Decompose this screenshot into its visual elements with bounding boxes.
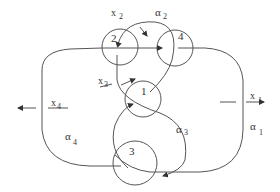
crossing-label-2: 2 — [111, 32, 117, 44]
knot-diagram: 2 4 1 3 x 2 x 3 x 4 x 1 α 2 α 3 α 4 α 1 — [0, 0, 280, 192]
label-x2: x 2 — [111, 7, 123, 21]
svg-text:3: 3 — [104, 80, 108, 89]
svg-text:x: x — [111, 7, 116, 18]
label-alpha1: α 1 — [250, 120, 263, 137]
crossing-circle-3 — [113, 141, 157, 185]
svg-text:x: x — [98, 75, 103, 86]
x2-arrow — [140, 27, 147, 36]
svg-text:1: 1 — [259, 128, 263, 137]
crossing-label-1: 1 — [141, 85, 147, 97]
crossing-circle-2 — [102, 29, 138, 65]
label-x4: x 4 — [51, 97, 61, 111]
svg-text:α: α — [65, 130, 71, 142]
svg-text:2: 2 — [163, 12, 167, 21]
svg-text:x: x — [51, 97, 56, 108]
svg-text:α: α — [155, 6, 161, 18]
svg-text:x: x — [250, 90, 255, 101]
crossing-label-3: 3 — [129, 145, 135, 157]
svg-text:1: 1 — [258, 96, 262, 105]
svg-text:α: α — [250, 120, 256, 132]
label-alpha4: α 4 — [65, 130, 77, 147]
label-x1: x 1 — [250, 90, 262, 105]
label-x3: x 3 — [98, 75, 108, 89]
svg-text:2: 2 — [119, 12, 123, 21]
label-alpha2: α 2 — [155, 6, 167, 21]
svg-text:4: 4 — [57, 102, 61, 111]
svg-text:4: 4 — [73, 138, 77, 147]
strance-alpha3-loop — [113, 104, 133, 168]
label-alpha3: α 3 — [176, 123, 188, 137]
svg-text:α: α — [176, 123, 182, 135]
crossing-label-4: 4 — [178, 30, 184, 42]
svg-text:3: 3 — [184, 128, 188, 137]
